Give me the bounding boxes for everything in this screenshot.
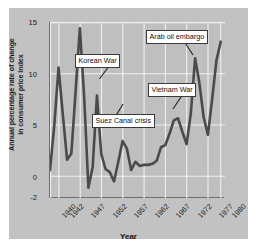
y-tick-label-5: 5 (15, 121, 37, 130)
x-tick-label-1980: 1980 (230, 202, 248, 220)
y-tick-label-15: 15 (15, 18, 37, 27)
annotation-suez-canal-crisis: Suez Canal crisis (92, 114, 155, 128)
grid-lines-vertical (51, 22, 221, 198)
annotation-korean-war: Korean War (75, 54, 120, 68)
annotation-leader-lines (100, 38, 194, 122)
x-tick-label-1947: 1947 (89, 202, 107, 220)
annotation-arab-oil-embargo: Arab oil embargo (146, 30, 208, 44)
plot-area: Korean War Suez Canal crisis Vietnam War… (49, 22, 224, 198)
chart-canvas (50, 22, 225, 198)
x-tick-label-1957: 1957 (132, 202, 150, 220)
y-axis-title-line-2: in consumer price index (17, 30, 26, 160)
x-tick-label-1972: 1972 (196, 202, 214, 220)
figure-panel: Annual percentage rate of change in cons… (9, 8, 248, 239)
y-tick-label--2: -2 (15, 193, 37, 202)
x-tick-label-1967: 1967 (174, 202, 192, 220)
annotation-vietnam-war: Vietnam War (148, 83, 196, 97)
data-line-cpi (50, 28, 221, 187)
chart-screenshot: Annual percentage rate of change in cons… (0, 0, 257, 247)
y-tick-label-0: 0 (15, 173, 37, 182)
y-tick-label-10: 10 (15, 70, 37, 79)
x-tick-label-1962: 1962 (153, 202, 171, 220)
x-axis-title: Year (9, 232, 248, 241)
y-axis-title: Annual percentage rate of change in cons… (8, 30, 25, 160)
x-tick-label-1952: 1952 (111, 202, 129, 220)
